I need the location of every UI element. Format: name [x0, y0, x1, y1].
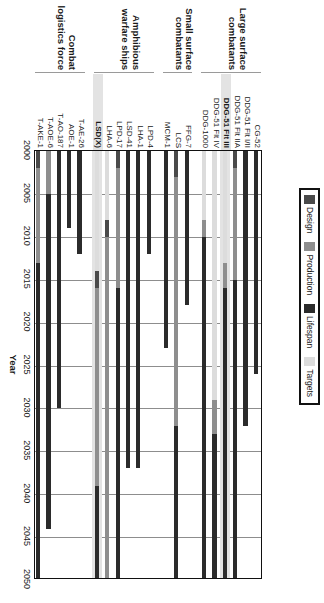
gantt-row-ddg-51-flt-i-ii[interactable] — [243, 151, 247, 578]
legend-label: Targets — [305, 369, 314, 397]
gantt-row-lha-1[interactable] — [136, 151, 140, 578]
segment-production — [202, 220, 206, 237]
x-tick-2020: 2020 — [22, 312, 32, 332]
segment-lifespan — [57, 151, 61, 408]
segment-targets — [223, 151, 227, 263]
legend-swatch-production — [304, 242, 315, 251]
row-label-cg-52: CG-52 — [253, 124, 261, 148]
legend-item-lifespan: Lifespan — [304, 304, 315, 348]
segment-lifespan — [185, 151, 189, 305]
x-tick-2035: 2035 — [22, 440, 32, 460]
gantt-row-aoe-1[interactable] — [67, 151, 71, 578]
segment-production — [46, 151, 50, 194]
group-divider — [163, 72, 192, 73]
row-label-column: CG-52DDG-51 Flt I/IIDDG-51 Flt IIADDG-51… — [34, 0, 262, 150]
x-axis-ticks: 2000200520102015202020252030203520402045… — [18, 150, 32, 579]
segment-lifespan — [254, 151, 258, 374]
group-title-large-surface-combatants: Large surface combatants — [227, 4, 248, 70]
row-label-t-ake-1: T-AKE-1 — [36, 118, 44, 148]
gantt-row-lsd-x-[interactable] — [95, 151, 99, 578]
segment-targets — [202, 151, 206, 220]
x-tick-2010: 2010 — [22, 226, 32, 246]
segment-lifespan — [67, 151, 71, 228]
gantt-row-lpd-4[interactable] — [147, 151, 151, 578]
segment-production — [223, 263, 227, 289]
segment-production — [116, 168, 120, 288]
segment-targets — [212, 151, 216, 400]
x-axis-title: Year — [8, 150, 19, 579]
rotated-figure-stage: DesignProductionLifespanTargets CG-52DDG… — [0, 0, 324, 603]
row-label-ddg-1000: DDG-1000 — [201, 110, 209, 148]
segment-production — [105, 237, 109, 579]
gantt-row-ddg-1000[interactable] — [202, 151, 206, 578]
legend-swatch-lifespan — [304, 304, 315, 313]
segment-production — [212, 400, 216, 434]
segment-lifespan — [36, 263, 40, 579]
gantt-row-ddg-51-flt-iv[interactable] — [212, 151, 216, 578]
x-tick-2050: 2050 — [22, 569, 32, 589]
gantt-row-ddg-51-flt-iia[interactable] — [233, 151, 237, 578]
x-tick-2025: 2025 — [22, 354, 32, 374]
group-title-combat-logistics-force: Combat logistics force — [56, 4, 77, 70]
row-label-lpd-4: LPD-4 — [146, 125, 154, 148]
legend-label: Production — [305, 254, 314, 295]
legend-item-design: Design — [304, 195, 315, 233]
row-label-lcs: LCS — [174, 132, 182, 148]
gantt-figure: DesignProductionLifespanTargets CG-52DDG… — [0, 0, 324, 603]
row-label-ffg-7: FFG-7 — [184, 125, 192, 148]
segment-design — [36, 151, 40, 168]
group-divider — [94, 72, 154, 73]
gantt-row-lha-6[interactable] — [105, 151, 109, 578]
segment-lifespan — [136, 151, 140, 468]
row-label-lsd-41: LSD-41 — [125, 121, 133, 148]
segment-design — [116, 151, 120, 168]
row-label-lha-6: LHA-6 — [105, 125, 113, 148]
gantt-row-t-ao-187[interactable] — [57, 151, 61, 578]
segment-lifespan — [243, 151, 247, 426]
segment-lifespan — [147, 151, 151, 254]
gantt-row-t-ae-26[interactable] — [78, 151, 82, 578]
group-divider — [35, 72, 85, 73]
row-label-t-ao-187: T-AO-187 — [56, 113, 64, 148]
x-tick-2040: 2040 — [22, 483, 32, 503]
row-label-lpd-17: LPD-17 — [115, 121, 123, 148]
row-label-aoe-1: AOE-1 — [67, 124, 75, 148]
gantt-row-lsd-41[interactable] — [126, 151, 130, 578]
segment-design — [233, 151, 237, 168]
legend-swatch-targets — [304, 357, 315, 366]
legend-label: Lifespan — [305, 316, 314, 348]
row-label-ddg-51-flt-iia: DDG-51 Flt IIA — [233, 96, 241, 148]
x-tick-2045: 2045 — [22, 526, 32, 546]
row-label-lha-1: LHA-1 — [136, 125, 144, 148]
plot-area — [34, 150, 262, 579]
segment-lifespan — [164, 151, 168, 348]
segment-production — [233, 168, 237, 280]
row-label-lsd-x-: LSD(X) — [94, 121, 102, 148]
x-tick-2005: 2005 — [22, 183, 32, 203]
gantt-row-ffg-7[interactable] — [185, 151, 189, 578]
segment-production — [36, 168, 40, 262]
segment-targets — [95, 151, 99, 271]
gantt-row-ddg-51-flt-iii[interactable] — [223, 151, 227, 578]
segment-lifespan — [78, 151, 82, 254]
legend-item-targets: Targets — [304, 357, 315, 397]
gantt-row-mcm-1[interactable] — [164, 151, 168, 578]
segment-lifespan — [233, 280, 237, 579]
row-label-t-ae-26: T-AE-26 — [77, 119, 85, 148]
gantt-row-t-aoe-6[interactable] — [46, 151, 50, 578]
gantt-row-cg-52[interactable] — [254, 151, 258, 578]
row-label-ddg-51-flt-i-ii: DDG-51 Flt I/II — [243, 96, 251, 148]
segment-design — [105, 220, 109, 237]
segment-lifespan — [223, 288, 227, 579]
gantt-row-t-ake-1[interactable] — [36, 151, 40, 578]
x-tick-2015: 2015 — [22, 269, 32, 289]
group-divider — [201, 72, 261, 73]
row-label-ddg-51-flt-iii: DDG-51 Flt III — [222, 98, 230, 148]
gantt-row-lcs[interactable] — [174, 151, 178, 578]
gantt-row-lpd-17[interactable] — [116, 151, 120, 578]
x-tick-2000: 2000 — [22, 140, 32, 160]
segment-lifespan — [212, 434, 216, 579]
chart-legend: DesignProductionLifespanTargets — [299, 188, 320, 405]
group-title-small-surface-combatants: Small surface combatants — [173, 4, 194, 70]
segment-design — [95, 271, 99, 288]
